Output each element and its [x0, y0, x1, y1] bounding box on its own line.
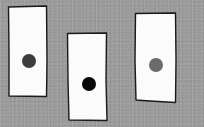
- cards-layer: [0, 0, 204, 127]
- middle-card-outline: [68, 33, 108, 121]
- gray-textured-background: [0, 0, 204, 127]
- left-card-outline: [9, 6, 48, 97]
- left-card: [9, 6, 48, 97]
- middle-dot-black: [82, 77, 96, 91]
- right-card-outline: [135, 13, 176, 103]
- middle-card: [68, 33, 108, 121]
- right-card: [135, 13, 176, 103]
- right-dot-medium-gray: [149, 58, 163, 72]
- left-dot-dark-gray: [22, 54, 36, 68]
